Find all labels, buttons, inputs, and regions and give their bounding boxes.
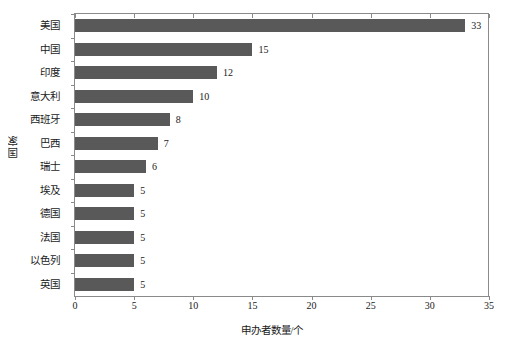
bar-value-label: 7 xyxy=(164,132,169,155)
bar xyxy=(75,231,134,244)
bar-value-label: 8 xyxy=(176,108,181,131)
y-axis-label-10: 法国 xyxy=(40,226,60,250)
y-axis-label-3: 印度 xyxy=(40,61,60,85)
y-axis-label-12: 英国 xyxy=(40,273,60,297)
bar-value-label: 5 xyxy=(140,226,145,249)
bar-value-label: 15 xyxy=(258,38,268,61)
bar-value-label: 10 xyxy=(199,85,209,108)
y-axis-label-4: 意大利 xyxy=(30,85,60,109)
bar-row: 5 xyxy=(75,202,489,226)
y-axis-label-7: 瑞士 xyxy=(40,155,60,179)
chart-page: 美国中国印度意大利西班牙巴西瑞士埃及德国法国以色列英国 331512108765… xyxy=(0,0,528,348)
y-axis-label-2: 中国 xyxy=(40,38,60,62)
bar-row: 5 xyxy=(75,273,489,297)
bar xyxy=(75,207,134,220)
y-axis-label-6: 巴西 xyxy=(40,132,60,156)
bar-row: 5 xyxy=(75,226,489,250)
bar-value-label: 5 xyxy=(140,179,145,202)
x-axis-tick-label-5: 5 xyxy=(132,300,137,311)
bar-value-label: 5 xyxy=(140,202,145,225)
x-axis-tick-label-30: 30 xyxy=(425,300,435,311)
bar-row: 7 xyxy=(75,132,489,156)
y-axis-label-5: 西班牙 xyxy=(30,108,60,132)
bar xyxy=(75,43,252,56)
bar-row: 5 xyxy=(75,179,489,203)
bar xyxy=(75,254,134,267)
bar-row: 5 xyxy=(75,249,489,273)
bars-layer: 3315121087655555 xyxy=(75,14,489,296)
bar-row: 15 xyxy=(75,38,489,62)
x-axis-tick-label-15: 15 xyxy=(247,300,257,311)
y-axis-label-11: 以色列 xyxy=(30,249,60,273)
x-axis-tick-labels: 05101520253035 xyxy=(0,300,528,316)
bar xyxy=(75,19,465,32)
x-axis-tick-label-10: 10 xyxy=(188,300,198,311)
x-axis-tick-label-25: 25 xyxy=(366,300,376,311)
bar xyxy=(75,137,158,150)
bar-row: 6 xyxy=(75,155,489,179)
x-axis-tick-top xyxy=(489,14,490,18)
x-axis-tick-label-0: 0 xyxy=(73,300,78,311)
bar-value-label: 12 xyxy=(223,61,233,84)
x-axis-title-text: 申办者数量/个 xyxy=(241,325,304,336)
bar xyxy=(75,90,193,103)
bar-row: 33 xyxy=(75,14,489,38)
bar xyxy=(75,278,134,291)
bar-value-label: 33 xyxy=(471,14,481,37)
bar xyxy=(75,113,170,126)
bar xyxy=(75,184,134,197)
bar xyxy=(75,160,146,173)
bar-value-label: 5 xyxy=(140,273,145,296)
y-axis-title: 国家 xyxy=(6,134,30,158)
x-axis-tick-label-35: 35 xyxy=(484,300,494,311)
bar-row: 8 xyxy=(75,108,489,132)
x-axis-title: 申办者数量/个 xyxy=(0,322,528,337)
x-axis-tick-label-20: 20 xyxy=(307,300,317,311)
y-axis-label-1: 美国 xyxy=(40,14,60,38)
bar xyxy=(75,66,217,79)
bar-value-label: 6 xyxy=(152,155,157,178)
y-axis-label-8: 埃及 xyxy=(40,179,60,203)
bar-row: 10 xyxy=(75,85,489,109)
bar-value-label: 5 xyxy=(140,249,145,272)
bar-row: 12 xyxy=(75,61,489,85)
y-axis-label-9: 德国 xyxy=(40,202,60,226)
